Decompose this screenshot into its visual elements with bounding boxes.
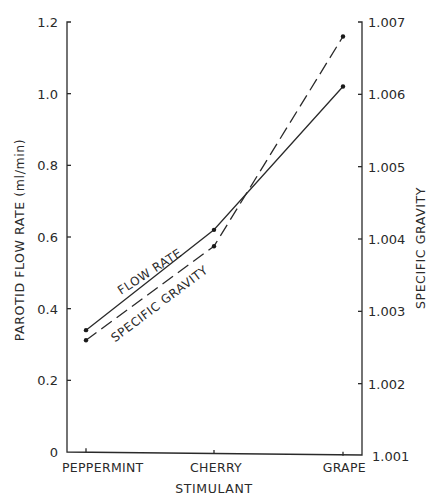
left-y-axis-ticks: 00.20.40.60.81.01.2 bbox=[37, 15, 71, 460]
right-tick-label: 1.001 bbox=[372, 449, 409, 464]
right-tick-label: 1.005 bbox=[368, 160, 405, 175]
specific-gravity-line-label: SPECIFIC GRAVITY bbox=[108, 263, 210, 345]
left-tick-label: 0.8 bbox=[37, 158, 58, 173]
x-category-label: PEPPERMINT bbox=[62, 460, 144, 475]
left-tick-label: 0 bbox=[50, 445, 58, 460]
data-point bbox=[341, 34, 345, 38]
x-category-label: GRAPE bbox=[323, 460, 366, 475]
data-point bbox=[212, 244, 216, 248]
chart-canvas: 00.20.40.60.81.01.2 1.0011.0021.0031.004… bbox=[0, 0, 439, 503]
axis-frame bbox=[67, 22, 362, 455]
x-axis-title: STIMULANT bbox=[175, 481, 252, 496]
left-tick-label: 0.4 bbox=[37, 302, 58, 317]
right-tick-label: 1.006 bbox=[368, 87, 405, 102]
left-tick-label: 0.2 bbox=[37, 373, 58, 388]
right-y-axis-ticks: 1.0011.0021.0031.0041.0051.0061.007 bbox=[358, 15, 409, 464]
left-y-axis-title: PAROTID FLOW RATE (ml/min) bbox=[12, 139, 27, 342]
axes bbox=[67, 22, 362, 455]
data-point bbox=[84, 328, 88, 332]
data-point bbox=[84, 338, 88, 342]
left-tick-label: 1.2 bbox=[37, 15, 58, 30]
right-tick-label: 1.004 bbox=[368, 232, 405, 247]
right-tick-label: 1.003 bbox=[368, 304, 405, 319]
right-y-axis-title: SPECIFIC GRAVITY bbox=[413, 187, 428, 309]
right-tick-label: 1.002 bbox=[368, 377, 405, 392]
left-tick-label: 0.6 bbox=[37, 230, 58, 245]
left-tick-label: 1.0 bbox=[37, 87, 58, 102]
right-tick-label: 1.007 bbox=[368, 15, 405, 30]
chart: 00.20.40.60.81.01.2 1.0011.0021.0031.004… bbox=[0, 0, 439, 503]
data-point bbox=[212, 228, 216, 232]
x-category-label: CHERRY bbox=[190, 460, 242, 475]
data-point bbox=[341, 84, 345, 88]
